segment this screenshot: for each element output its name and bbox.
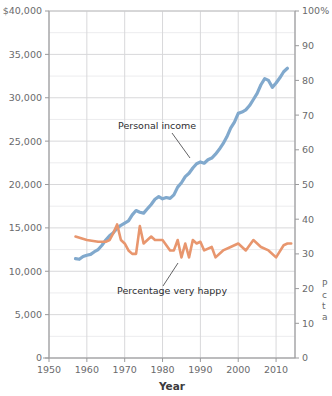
x-tick-label: 1980 (150, 364, 174, 375)
series-line-percentage-very-happy (75, 224, 291, 257)
y-tick-label-left: 10,000 (9, 266, 42, 277)
x-tick-label: 1970 (113, 364, 137, 375)
y-tick-label-left: 25,000 (9, 136, 42, 147)
y-tick-label-right: 10 (302, 318, 314, 329)
y-tick-label-left: 35,000 (9, 49, 42, 60)
chart-container: 05,00010,00015,00020,00025,00030,00035,0… (0, 0, 332, 396)
y-tick-label-left: 30,000 (9, 92, 42, 103)
y-tick-label-right: 20 (302, 283, 314, 294)
y-tick-label-right: 0 (302, 352, 308, 363)
side-note-line: t (322, 301, 326, 311)
side-note-line: P (322, 279, 328, 289)
y-tick-label-right: 50 (302, 179, 314, 190)
y-tick-label-left: 5,000 (15, 309, 42, 320)
y-tick-label-right: 30 (302, 248, 314, 259)
side-note-line: a (322, 312, 328, 322)
y-tick-label-right: 90 (302, 40, 314, 51)
y-tick-label-left: 20,000 (9, 179, 42, 190)
side-note-line: c (322, 290, 327, 300)
y-tick-label-right: 80 (302, 75, 314, 86)
leader-line-percentage-very-happy (163, 263, 178, 286)
series-line-personal-income (75, 68, 287, 259)
x-tick-label: 1990 (188, 364, 212, 375)
x-axis-title: Year (158, 380, 186, 392)
x-tick-label: 1960 (75, 364, 99, 375)
y-tick-label-left: $40,000 (3, 5, 42, 16)
leader-line-personal-income (172, 133, 190, 158)
y-tick-label-left: 0 (36, 352, 42, 363)
y-tick-label-right: 100% (302, 5, 329, 16)
x-tick-label: 1950 (37, 364, 61, 375)
y-tick-label-right: 70 (302, 110, 314, 121)
series-label-personal-income: Personal income (118, 120, 196, 131)
x-tick-label: 2000 (226, 364, 250, 375)
y-tick-label-right: 60 (302, 144, 314, 155)
x-tick-label: 2010 (264, 364, 288, 375)
y-tick-label-left: 15,000 (9, 222, 42, 233)
y-tick-label-right: 40 (302, 214, 314, 225)
series-label-percentage-very-happy: Percentage very happy (117, 285, 227, 296)
line-chart: 05,00010,00015,00020,00025,00030,00035,0… (0, 0, 332, 396)
